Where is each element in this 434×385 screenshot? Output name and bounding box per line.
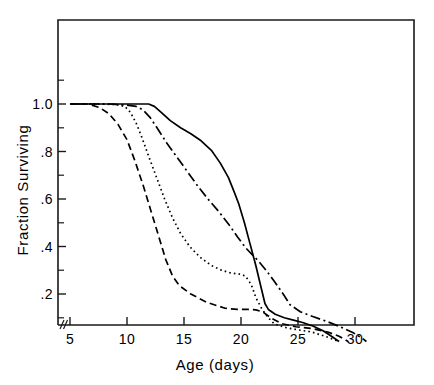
y-tick-label: .2 (41, 286, 53, 302)
survival-curve-figure: 1.0 .8 .6 .4 .2 5 10 15 20 25 30 Age (da… (0, 0, 434, 385)
x-tick-label: 15 (176, 331, 192, 347)
x-tick-label: 5 (66, 331, 74, 347)
y-axis-title: Fraction Surviving (14, 125, 31, 256)
y-tick-label: .4 (41, 239, 53, 255)
y-tick-label: .8 (41, 144, 53, 160)
x-tick-label: 20 (233, 331, 249, 347)
x-tick-label: 25 (290, 331, 306, 347)
x-axis-title: Age (days) (176, 356, 255, 373)
chart-canvas: 1.0 .8 .6 .4 .2 5 10 15 20 25 30 Age (da… (0, 0, 434, 385)
y-tick-label: .6 (41, 191, 53, 207)
chart-background (0, 0, 434, 385)
x-tick-label: 10 (119, 331, 135, 347)
y-tick-label: 1.0 (32, 96, 53, 112)
